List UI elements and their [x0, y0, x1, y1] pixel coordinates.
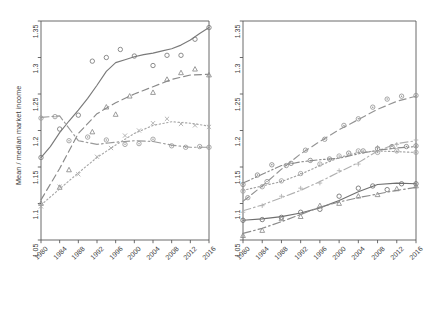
- y-tick-label: 1.1: [32, 203, 39, 225]
- y-tick-label: 1.1: [234, 203, 241, 225]
- plot-area-left: [0, 0, 221, 316]
- y-axis-title: Mean / median market income: [14, 86, 23, 185]
- y-tick-label: 1.3: [32, 57, 39, 79]
- y-tick-label: 1.35: [32, 21, 39, 43]
- y-tick-label: 1.25: [234, 94, 241, 116]
- y-tick-label: 1.2: [32, 130, 39, 152]
- figure-root: Mean / median market income 1.051.11.151…: [0, 0, 441, 316]
- chart-panel-left: Mean / median market income 1.051.11.151…: [0, 0, 221, 316]
- y-tick-label: 1.25: [32, 94, 39, 116]
- chart-panel-right: 1.051.11.151.21.251.31.35 19801984198819…: [220, 0, 441, 316]
- y-tick-label: 1.15: [32, 167, 39, 189]
- y-tick-label: 1.2: [234, 130, 241, 152]
- plot-area-right: [220, 0, 441, 316]
- y-tick-label: 1.3: [234, 57, 241, 79]
- y-tick-label: 1.15: [234, 167, 241, 189]
- y-tick-label: 1.35: [234, 21, 241, 43]
